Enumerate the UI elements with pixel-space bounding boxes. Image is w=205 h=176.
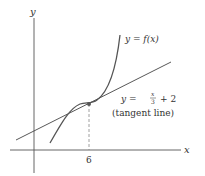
x-axis-label: x [184,144,190,155]
fraction-denominator: 3 [151,98,155,105]
curve-label: y = f(x) [124,34,159,44]
tangent-label-prefix: y = [120,94,137,104]
y-axis-label: y [29,6,36,17]
tangent-line-diagram: x y 6 y = f(x) y = x 3 + 2 (tangent line… [0,0,205,176]
fraction-numerator: x [151,90,155,97]
tangent-label-suffix: + 2 [160,94,176,104]
tangent-point [87,102,91,106]
tangent-line [16,62,171,140]
tangent-note: (tangent line) [112,108,174,118]
tangent-equation: y = x 3 + 2 [120,90,176,105]
function-curve [50,35,120,143]
x-tick-label: 6 [86,155,92,165]
